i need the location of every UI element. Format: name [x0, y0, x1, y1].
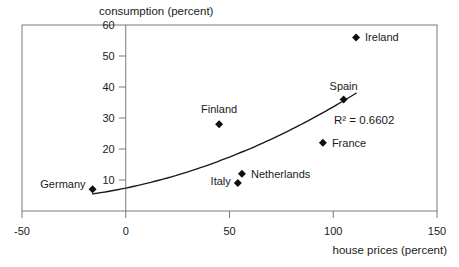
y-axis-title: consumption (percent): [99, 5, 213, 18]
r-squared-annotation: R² = 0.6602: [334, 114, 394, 127]
x-tick-label--50: -50: [14, 225, 30, 237]
y-tick-label-30: 30: [103, 112, 115, 124]
point-label-ireland: Ireland: [365, 31, 399, 43]
x-tick-label-150: 150: [428, 225, 446, 237]
point-label-france: France: [332, 137, 366, 149]
point-label-netherlands: Netherlands: [251, 168, 311, 180]
y-tick-label-20: 20: [103, 143, 115, 155]
x-axis-title: house prices (percent): [333, 244, 447, 257]
point-label-finland: Finland: [201, 103, 237, 115]
y-tick-label-40: 40: [103, 81, 115, 93]
point-label-italy: Italy: [211, 175, 232, 187]
data-point-netherlands: [238, 170, 246, 178]
scatter-chart-figure: -50050100150102030405060GermanyFinlandIt…: [0, 0, 459, 267]
data-point-france: [319, 139, 327, 147]
x-tick-label-0: 0: [123, 225, 129, 237]
data-point-ireland: [352, 33, 360, 41]
y-tick-label-10: 10: [103, 174, 115, 186]
point-label-spain: Spain: [330, 80, 358, 92]
x-tick-label-100: 100: [324, 225, 342, 237]
data-point-germany: [89, 185, 97, 193]
data-point-finland: [215, 120, 223, 128]
data-point-italy: [234, 179, 242, 187]
chart-canvas: -50050100150102030405060GermanyFinlandIt…: [0, 0, 459, 267]
point-label-germany: Germany: [40, 178, 86, 190]
x-tick-label-50: 50: [223, 225, 235, 237]
y-tick-label-50: 50: [103, 50, 115, 62]
y-tick-label-60: 60: [103, 19, 115, 31]
